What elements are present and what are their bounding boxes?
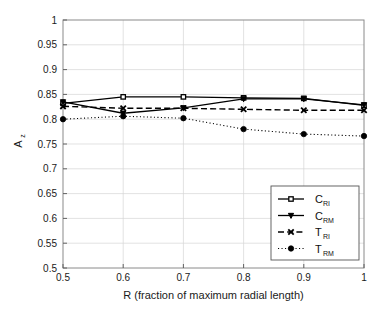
- x-tick-label: 0.7: [176, 272, 190, 283]
- y-tick-label: 1: [51, 15, 57, 26]
- marker-circle: [60, 117, 65, 122]
- chart-canvas: 0.50.550.60.650.70.750.80.850.90.9510.50…: [0, 0, 379, 309]
- y-axis-title: Az: [12, 134, 26, 148]
- legend-label-t-rm: T: [315, 243, 322, 255]
- x-tick-label: 0.5: [56, 272, 70, 283]
- y-tick-label: 0.75: [38, 139, 58, 150]
- legend-label-c-rm: C: [315, 210, 323, 222]
- y-tick-label: 0.85: [38, 89, 58, 100]
- legend-label-t-ri: T: [315, 226, 322, 238]
- x-tick-label: 1: [361, 272, 367, 283]
- y-tick-label: 0.55: [38, 238, 58, 249]
- chart-figure: 0.50.550.60.650.70.750.80.850.90.9510.50…: [0, 0, 379, 309]
- series-c-rm: [60, 97, 366, 116]
- y-axis-title-text: A: [12, 140, 24, 148]
- marker-circle: [241, 126, 246, 131]
- legend-subscript-c-rm: RM: [323, 217, 334, 224]
- series-t-ri: [60, 104, 366, 113]
- marker-circle: [301, 131, 306, 136]
- series-t-rm: [60, 114, 366, 139]
- marker-circle: [361, 133, 366, 138]
- y-tick-label: 0.65: [38, 188, 58, 199]
- marker-square: [181, 95, 185, 99]
- series-polyline: [63, 106, 364, 110]
- legend-label-c-ri: C: [315, 193, 323, 205]
- series-polyline: [63, 99, 364, 113]
- marker-triangle-down: [241, 97, 246, 102]
- marker-circle: [181, 116, 186, 121]
- legend-subscript-c-ri: RI: [323, 200, 330, 207]
- legend-subscript-t-ri: RI: [323, 233, 330, 240]
- x-tick-label: 0.8: [237, 272, 251, 283]
- marker-circle: [121, 114, 126, 119]
- y-tick-label: 0.8: [43, 114, 57, 125]
- y-tick-label: 0.7: [43, 163, 57, 174]
- x-axis-title: R (fraction of maximum radial length): [123, 289, 303, 301]
- y-axis-title-subscript: z: [19, 134, 26, 138]
- marker-square: [289, 197, 293, 201]
- x-tick-label: 0.6: [116, 272, 130, 283]
- marker-square: [121, 95, 125, 99]
- legend-subscript-t-rm: RM: [323, 250, 334, 257]
- y-tick-label: 0.9: [43, 64, 57, 75]
- y-tick-label: 0.6: [43, 213, 57, 224]
- y-tick-label: 0.95: [38, 39, 58, 50]
- chart-legend: CRICRMTRITRM: [271, 186, 359, 260]
- marker-circle: [288, 246, 293, 251]
- x-tick-label: 0.9: [297, 272, 311, 283]
- series-polyline: [63, 97, 364, 105]
